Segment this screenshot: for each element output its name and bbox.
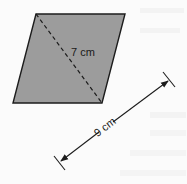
diagram-canvas: 7 cm 9 cm: [0, 0, 187, 184]
measure-end-tick-bottom: [54, 156, 65, 170]
side-measure-label: 9 cm: [91, 115, 117, 139]
rhombus-diagram: 7 cm 9 cm: [0, 0, 187, 184]
rhombus-shape: [13, 14, 125, 103]
measure-end-tick-top: [163, 72, 175, 87]
diagonal-label: 7 cm: [71, 46, 95, 58]
